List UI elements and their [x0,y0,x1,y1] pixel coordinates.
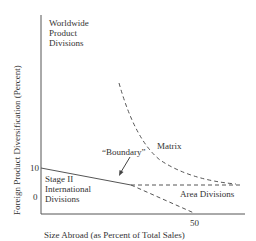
diagram-canvas [0,0,256,241]
region-matrix-label: Matrix [157,141,182,151]
region-label-line: International [45,184,91,194]
region-label-line: Divisions [49,38,84,48]
y-tick-10: 10 [30,163,39,173]
region-label-line: Product [49,28,77,38]
x-axis-label: Size Abroad (as Percent of Total Sales) [44,230,185,240]
y-axis-label: Foreign Product Diversification (Percent… [12,65,22,215]
region-label-line: Worldwide [49,18,89,28]
arrowhead-icon [119,170,124,176]
boundary-arrow [121,157,130,172]
region-label-line: Divisions [45,194,80,204]
boundary-annotation-label: “Boundary” [102,147,145,157]
x-tick-50: 50 [190,218,199,228]
y-tick-0: 0 [33,192,38,202]
matrix-dashed-curve [119,83,236,184]
region-label-line: Stage II [45,174,73,184]
region-area-divisions-label: Area Divisions [180,189,234,199]
